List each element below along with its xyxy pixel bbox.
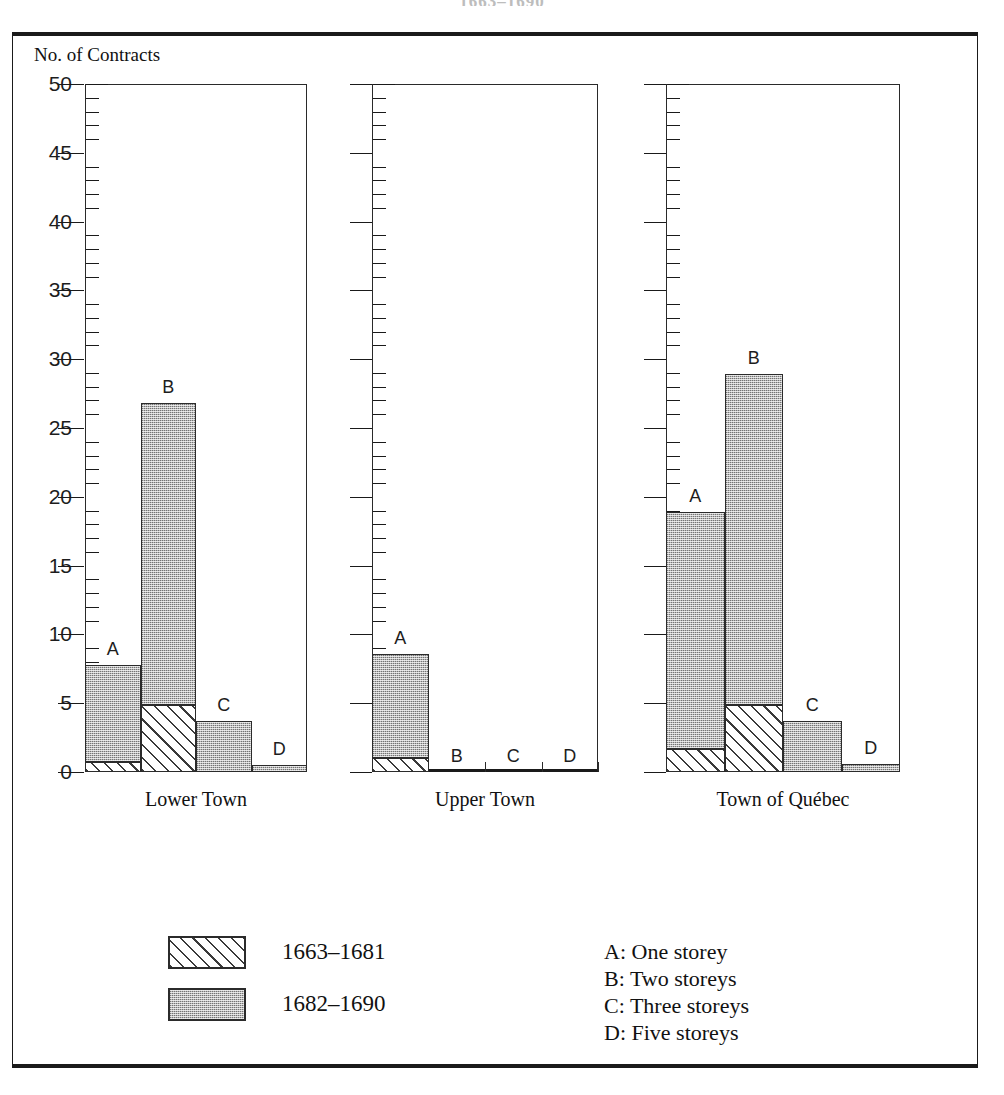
panel-minor-tick [373, 304, 386, 305]
bar-lower-town-B[interactable] [141, 403, 197, 772]
panel-minor-tick [86, 662, 99, 663]
panel-minor-tick [373, 167, 386, 168]
panel-minor-tick [373, 456, 386, 457]
legend-label-late: 1682–1690 [282, 991, 386, 1017]
panel-outer-major-tick [644, 566, 666, 567]
panel-minor-tick [667, 112, 680, 113]
panel-minor-tick [373, 483, 386, 484]
bar-town-of-quebec-B[interactable] [725, 374, 784, 772]
panel-baseline-divider [542, 762, 543, 772]
panel-minor-tick [86, 552, 99, 553]
y-axis-major-tick [58, 772, 84, 773]
panel-minor-tick [667, 235, 680, 236]
panel-minor-tick [667, 180, 680, 181]
panel-minor-tick [86, 277, 99, 278]
panel-minor-tick [86, 511, 99, 512]
panel-minor-tick [667, 194, 680, 195]
panel-minor-tick [667, 208, 680, 209]
panel-minor-tick [86, 125, 99, 126]
panel-minor-tick [373, 524, 386, 525]
panel-outer-major-tick [350, 290, 372, 291]
y-axis-major-tick [58, 703, 84, 704]
bar-letter-B: B [162, 377, 174, 398]
y-axis-major-tick [58, 153, 84, 154]
bar-segment-1682-1690 [196, 721, 252, 772]
panel-minor-tick [667, 277, 680, 278]
bar-town-of-quebec-D[interactable] [842, 764, 901, 772]
panel-minor-tick [373, 112, 386, 113]
bar-upper-town-A[interactable] [372, 654, 429, 772]
panel-minor-tick [86, 194, 99, 195]
panel-minor-tick [667, 373, 680, 374]
panel-minor-tick [373, 648, 386, 649]
panel-minor-tick [86, 607, 99, 608]
bar-letter-C: C [217, 695, 230, 716]
panel-minor-tick [667, 332, 680, 333]
panel-outer-major-tick [644, 428, 666, 429]
panel-outer-major-tick [350, 566, 372, 567]
panel-outer-major-tick [350, 222, 372, 223]
panel-minor-tick [86, 263, 99, 264]
legend-label-early: 1663–1681 [282, 939, 386, 965]
y-axis-major-tick [58, 84, 84, 85]
panel-minor-tick [667, 98, 680, 99]
bar-letter-B: B [748, 348, 760, 369]
bar-letter-A: A [394, 628, 406, 649]
panel-minor-tick [373, 345, 386, 346]
panel-minor-tick [86, 469, 99, 470]
panel-minor-tick [667, 125, 680, 126]
bar-segment-1663-1681 [141, 705, 197, 772]
panel-minor-tick [86, 538, 99, 539]
figure-page: 1663–1690 No. of Contracts 0510152025303… [0, 0, 1004, 1095]
panel-minor-tick [86, 456, 99, 457]
panel-minor-tick [667, 387, 680, 388]
bar-segment-1682-1690 [725, 374, 784, 704]
panel-major-tick [667, 84, 689, 85]
bar-segment-1663-1681 [372, 758, 429, 772]
panel-minor-tick [373, 277, 386, 278]
bar-town-of-quebec-A[interactable] [666, 512, 725, 772]
panel-minor-tick [373, 180, 386, 181]
panel-minor-tick [86, 373, 99, 374]
y-axis-major-tick [58, 359, 84, 360]
bar-letter-D: D [563, 746, 576, 767]
panel-minor-tick [86, 621, 99, 622]
bar-segment-1682-1690 [252, 765, 308, 772]
panel-minor-tick [373, 235, 386, 236]
bar-letter-D: D [273, 739, 286, 760]
panel-minor-tick [86, 304, 99, 305]
panel-minor-tick [373, 318, 386, 319]
legend-key-d: D: Five storeys [604, 1019, 749, 1046]
panel-minor-tick [86, 249, 99, 250]
bar-lower-town-A[interactable] [85, 665, 141, 772]
panel-minor-tick [373, 414, 386, 415]
panel-outer-major-tick [644, 359, 666, 360]
panel-minor-tick [86, 387, 99, 388]
panel-minor-tick [667, 345, 680, 346]
panel-minor-tick [373, 442, 386, 443]
panel-outer-major-tick [644, 153, 666, 154]
legend-key-c: C: Three storeys [604, 992, 749, 1019]
bar-lower-town-D[interactable] [252, 765, 308, 772]
panel-minor-tick [373, 332, 386, 333]
panel-minor-tick [667, 456, 680, 457]
panel-outer-major-tick [644, 497, 666, 498]
panel-minor-tick [373, 593, 386, 594]
panel-minor-tick [667, 483, 680, 484]
panel-minor-tick [373, 469, 386, 470]
bar-lower-town-C[interactable] [196, 721, 252, 772]
panel-minor-tick [373, 263, 386, 264]
bar-segment-1682-1690 [141, 403, 197, 704]
panel-outer-major-tick [644, 703, 666, 704]
panel-baseline-divider [485, 762, 486, 772]
panel-outer-major-tick [644, 84, 666, 85]
panel-minor-tick [373, 208, 386, 209]
bar-town-of-quebec-C[interactable] [783, 721, 842, 772]
panel-minor-tick [86, 593, 99, 594]
panel-outer-major-tick [350, 703, 372, 704]
bar-letter-A: A [107, 639, 119, 660]
panel-minor-tick [373, 400, 386, 401]
legend-storey-key: A: One storey B: Two storeys C: Three st… [604, 938, 749, 1046]
panel-minor-tick [86, 414, 99, 415]
panel-outer-major-tick [644, 772, 666, 773]
